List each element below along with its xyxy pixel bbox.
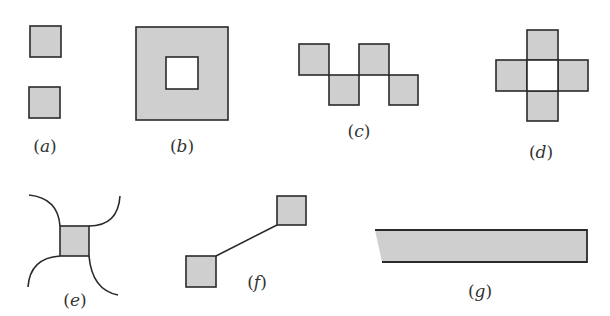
zigzag-square-1: [299, 44, 329, 75]
figure-f: [186, 196, 306, 287]
figure-b: [136, 27, 228, 120]
cross-bottom: [527, 91, 558, 121]
cross-top: [527, 30, 558, 60]
zigzag-square-2: [329, 75, 359, 105]
label-c: (c): [348, 123, 371, 140]
figure-d: [496, 30, 588, 121]
arc-bottom-right: [89, 256, 118, 295]
square-top: [30, 26, 61, 57]
label-a: (a): [33, 138, 56, 155]
square-bottom: [29, 87, 60, 118]
label-b: (b): [170, 138, 194, 155]
cross-right: [558, 60, 588, 91]
square-upper-right: [277, 196, 306, 225]
center-square: [60, 226, 89, 256]
arc-bottom-left: [28, 256, 60, 287]
label-e: (e): [63, 292, 86, 309]
label-g: (g): [468, 283, 492, 300]
inner-hole: [166, 57, 198, 89]
cross-left: [496, 60, 527, 91]
label-d: (d): [529, 144, 553, 161]
connector-line: [216, 225, 277, 256]
zigzag-square-3: [359, 44, 389, 75]
strip-fill: [375, 230, 587, 262]
square-lower-left: [186, 256, 216, 287]
label-f: (f): [247, 274, 267, 291]
cross-center-hole: [527, 60, 558, 91]
arc-top-left: [29, 195, 60, 226]
zigzag-square-4: [389, 75, 418, 105]
figure-diagram: [0, 0, 610, 316]
arc-top-right: [89, 196, 120, 226]
figure-c: [299, 44, 418, 105]
figure-a: [29, 26, 61, 118]
figure-e: [28, 195, 120, 295]
figure-g: [375, 230, 587, 262]
